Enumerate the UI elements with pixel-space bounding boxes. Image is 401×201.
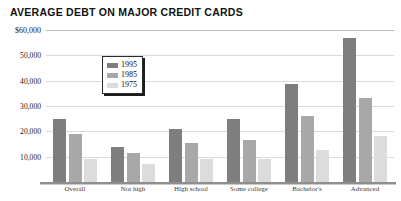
legend-label: 1995 bbox=[121, 60, 137, 70]
y-axis-tick-label: 50,000 bbox=[20, 51, 41, 60]
x-axis-category-labels: OverallNot highHigh schoolSome collegeBa… bbox=[46, 185, 394, 199]
bar-group bbox=[111, 30, 155, 182]
y-axis-tick-label: 20,000 bbox=[20, 127, 41, 136]
bar bbox=[343, 38, 356, 182]
x-axis-category-label: Not high bbox=[121, 185, 146, 193]
legend-item: 1975 bbox=[107, 80, 137, 90]
bar-group bbox=[227, 30, 271, 182]
bar bbox=[111, 147, 124, 182]
bar-group bbox=[343, 30, 387, 182]
bar bbox=[374, 136, 387, 182]
credit-card-debt-bar-chart: AVERAGE DEBT ON MAJOR CREDIT CARDS $60,0… bbox=[0, 0, 401, 201]
bar bbox=[227, 119, 240, 182]
bar-group bbox=[285, 30, 329, 182]
legend-item: 1995 bbox=[107, 60, 137, 70]
x-axis-category-label: High school bbox=[174, 185, 208, 193]
legend-item: 1985 bbox=[107, 70, 137, 80]
x-axis-category-label: Advanced bbox=[351, 185, 379, 193]
bar-group bbox=[53, 30, 97, 182]
bars-layer bbox=[46, 30, 394, 182]
x-axis-category-label: Bachelor's bbox=[292, 185, 321, 193]
bar bbox=[301, 116, 314, 182]
legend-swatch bbox=[107, 83, 118, 88]
x-axis-baseline bbox=[40, 182, 396, 184]
bar bbox=[243, 140, 256, 182]
bar bbox=[84, 159, 97, 182]
bar bbox=[185, 143, 198, 182]
y-axis-tick-label: 40,000 bbox=[20, 76, 41, 85]
bar bbox=[258, 159, 271, 182]
y-axis-tick-label: 30,000 bbox=[20, 102, 41, 111]
bar-group bbox=[169, 30, 213, 182]
bar bbox=[69, 134, 82, 182]
legend-label: 1975 bbox=[121, 80, 137, 90]
legend-swatch bbox=[107, 73, 118, 78]
y-axis-tick-label: 10,000 bbox=[20, 152, 41, 161]
legend-label: 1985 bbox=[121, 70, 137, 80]
chart-legend: 199519851975 bbox=[102, 56, 143, 94]
bar bbox=[285, 84, 298, 182]
bar bbox=[142, 164, 155, 182]
plot-area: $60,00050,00040,00030,00020,00010,000 bbox=[46, 30, 394, 182]
bar bbox=[53, 119, 66, 182]
bar bbox=[169, 129, 182, 182]
y-axis-tick-label: $60,000 bbox=[15, 26, 41, 35]
bar bbox=[316, 150, 329, 182]
x-axis-category-label: Some college bbox=[230, 185, 268, 193]
legend-swatch bbox=[107, 63, 118, 68]
bar bbox=[359, 98, 372, 182]
chart-title: AVERAGE DEBT ON MAJOR CREDIT CARDS bbox=[10, 6, 243, 18]
x-axis-category-label: Overall bbox=[65, 185, 86, 193]
bar bbox=[127, 153, 140, 182]
bar bbox=[200, 159, 213, 182]
